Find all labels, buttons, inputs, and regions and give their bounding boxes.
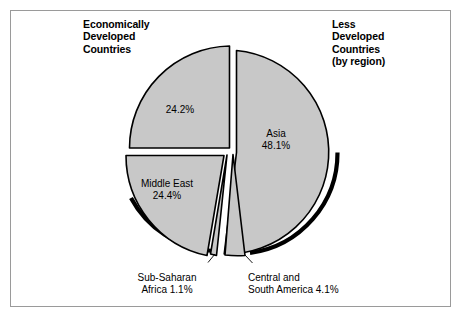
slice-label-asia: Asia 48.1% <box>246 128 306 152</box>
slice-label-economically-developed-countries-percent: 24.2% <box>150 104 210 116</box>
slice-label-middle-east: Middle East 24.4% <box>120 178 214 202</box>
callout-label-central-south-america: Central and South America 4.1% <box>248 272 398 297</box>
chart-figure: .sl{ fill:#c8c8c8; stroke:#000000; strok… <box>0 0 462 319</box>
callout-label-sub-saharan-africa: Sub-Saharan Africa 1.1% <box>114 272 220 297</box>
sub-saharan-africa-leader-line <box>208 254 215 263</box>
middle-east-slice[interactable] <box>126 156 224 256</box>
central-south-america-leader-line <box>245 255 253 263</box>
group-label-less-developed-countries: Less Developed Countries (by region) <box>332 18 385 68</box>
economically-developed-countries-slice[interactable] <box>130 46 230 148</box>
group-label-economically-developed-countries: Economically Developed Countries <box>83 18 150 55</box>
